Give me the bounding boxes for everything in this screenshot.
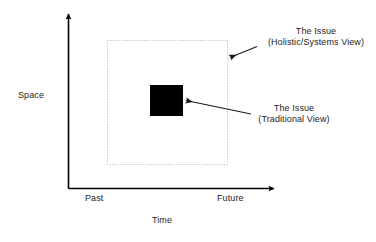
holistic-callout-line2: (Holistic/Systems View)	[256, 37, 376, 48]
traditional-issue-block	[150, 85, 183, 116]
traditional-callout-arrow	[186, 101, 251, 115]
holistic-callout-arrow	[230, 47, 257, 58]
time-axis-label: Time	[152, 215, 172, 226]
diagram-canvas: Space Past Future Time The Issue (Holist…	[0, 0, 376, 242]
traditional-callout-line2: (Traditional View)	[250, 114, 338, 125]
traditional-callout: The Issue (Traditional View)	[250, 103, 338, 125]
holistic-callout: The Issue (Holistic/Systems View)	[256, 26, 376, 48]
traditional-callout-line1: The Issue	[250, 103, 338, 114]
time-axis-future-label: Future	[217, 193, 244, 204]
space-axis-label: Space	[18, 90, 44, 101]
holistic-callout-line1: The Issue	[256, 26, 376, 37]
time-axis-past-label: Past	[85, 193, 103, 204]
